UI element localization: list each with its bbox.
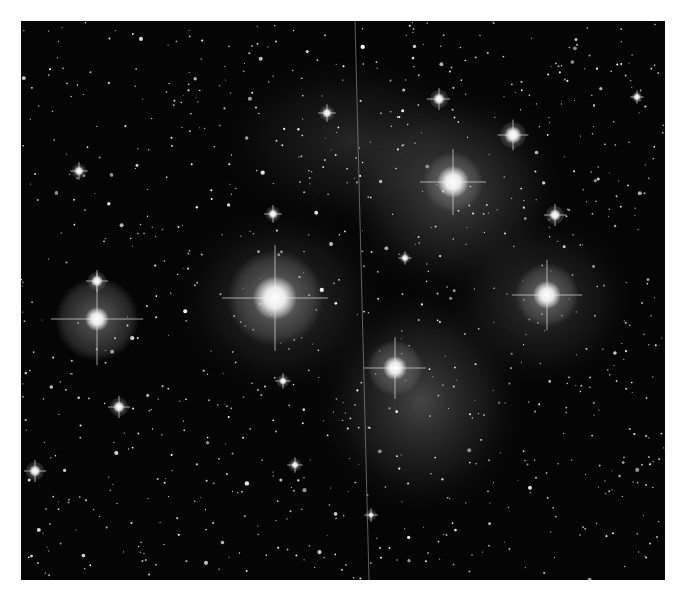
night-sky-canvas: [21, 21, 665, 580]
bright-star: [24, 460, 46, 482]
star-cluster-photo: [21, 21, 665, 580]
bright-star: [108, 396, 130, 418]
bright-star: [364, 508, 377, 521]
bright-star: [70, 162, 88, 180]
bright-star: [630, 90, 643, 103]
bright-star: [287, 457, 302, 472]
